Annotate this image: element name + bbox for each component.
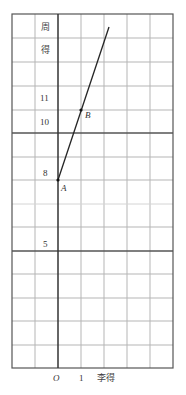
point-a xyxy=(56,178,59,181)
point-a-label: A xyxy=(60,183,67,193)
y-axis-label-char-2: 得 xyxy=(41,44,50,55)
x-axis-label: 李得 xyxy=(97,372,115,383)
origin-label: O xyxy=(53,373,60,383)
coordinate-diagram: 周 得 11 10 8 5 A B O 1 李得 xyxy=(0,0,186,395)
y-tick-5: 5 xyxy=(43,239,48,249)
point-b-label: B xyxy=(85,110,91,120)
y-tick-8: 8 xyxy=(43,168,48,178)
y-axis-label-char-1: 周 xyxy=(41,22,50,32)
x-tick-1: 1 xyxy=(79,373,84,383)
y-tick-11: 11 xyxy=(40,93,49,103)
point-b xyxy=(79,108,82,111)
grid xyxy=(12,14,173,368)
y-tick-10: 10 xyxy=(40,117,50,127)
grid-border xyxy=(12,14,173,368)
